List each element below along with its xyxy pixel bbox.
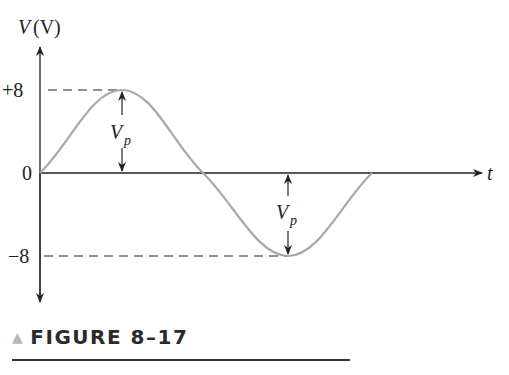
trough-vp-subscript: p (289, 213, 297, 228)
tick-label-negative: −8 (8, 245, 29, 267)
peak-vp-subscript: p (123, 133, 131, 148)
caption-underline (12, 359, 350, 361)
tick-label-positive: +8 (2, 79, 23, 101)
sine-diagram: V (V) +8 0 −8 t V p V p (0, 0, 509, 375)
peak-vp-label: V (110, 121, 125, 143)
figure-caption: ▲FIGURE 8–17 (12, 325, 188, 349)
y-axis-symbol: V (18, 16, 33, 38)
trough-vp-label: V (276, 201, 291, 223)
x-axis-label: t (487, 162, 493, 184)
triangle-icon: ▲ (12, 329, 24, 345)
y-axis-unit: (V) (33, 16, 61, 39)
figure-caption-text: FIGURE 8–17 (30, 325, 188, 349)
tick-label-zero: 0 (22, 162, 32, 184)
